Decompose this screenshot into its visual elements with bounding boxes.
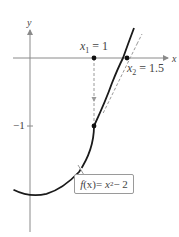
y-tick-label: −1 — [13, 120, 25, 131]
x1-label: x1 = 1 — [80, 40, 108, 55]
x1-eq: = 1 — [89, 39, 108, 53]
x2-label: x2 = 1.5 — [127, 62, 164, 77]
point-x1 — [92, 56, 97, 61]
tangent-extension — [137, 34, 142, 44]
down-arrow-icon — [92, 97, 97, 102]
x2-eq: = 1.5 — [136, 61, 164, 75]
x-axis-label: x — [172, 54, 176, 64]
func-rest: − 2 — [113, 178, 127, 190]
tangent-line — [103, 44, 137, 113]
y-axis-label: y — [27, 18, 31, 28]
function-callout: f(x) = x2 − 2 — [74, 174, 134, 194]
point-f-x1 — [92, 124, 97, 129]
func-arg: (x) — [83, 178, 96, 190]
curve-f — [14, 28, 135, 195]
point-x2 — [125, 56, 130, 61]
newton-method-figure — [0, 0, 179, 237]
func-eq: = — [96, 178, 102, 190]
